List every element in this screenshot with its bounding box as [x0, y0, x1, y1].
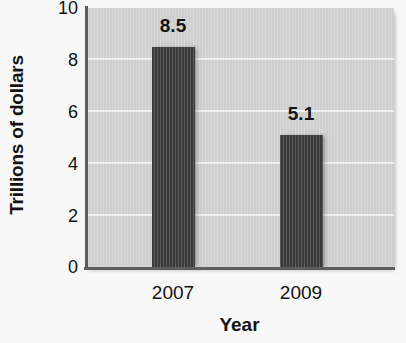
y-tick-label: 8 [34, 50, 78, 71]
bar-chart-figure: Trillions of dollars 10 8 6 4 2 0 8.5 5.… [0, 0, 406, 343]
bar-value-label-2009: 5.1 [288, 103, 314, 125]
gridline-2 [85, 214, 394, 216]
bar-2009[interactable] [280, 135, 323, 268]
y-axis-line [85, 6, 88, 270]
bar-2007[interactable] [152, 47, 195, 268]
x-tick-label-2009: 2009 [280, 282, 322, 304]
y-tick-label: 4 [34, 154, 78, 175]
y-tick-label: 10 [34, 0, 78, 19]
gridline-8 [85, 58, 394, 60]
x-axis-line [84, 267, 395, 270]
y-axis-title: Trillions of dollars [0, 0, 34, 270]
bar-value-label-2007: 8.5 [160, 15, 186, 37]
gridline-4 [85, 162, 394, 164]
y-tick-label: 2 [34, 206, 78, 227]
x-tick-label-2007: 2007 [152, 282, 194, 304]
y-tick-label: 6 [34, 102, 78, 123]
y-tick-label: 0 [34, 257, 78, 278]
plot-area [85, 8, 394, 268]
y-axis-tick-labels: 10 8 6 4 2 0 [34, 0, 78, 343]
gridline-6 [85, 110, 394, 112]
x-axis-title: Year [85, 314, 394, 336]
